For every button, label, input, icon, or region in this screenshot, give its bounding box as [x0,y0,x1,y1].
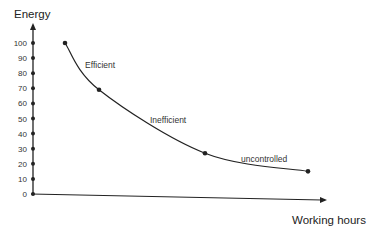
y-tick-mark-0 [31,192,35,196]
y-tick-label-80: 80 [18,69,27,78]
y-axis-label: Energy [14,8,51,20]
x-axis-label: Working hours [292,214,366,226]
y-tick-label-40: 40 [18,130,27,139]
y-tick-label-0: 0 [23,190,28,199]
y-tick-mark-90 [31,56,35,60]
x-axis-line [31,194,322,200]
energy-chart: Energy Working hours 0102030405060708090… [0,0,374,238]
y-tick-label-60: 60 [18,99,27,108]
y-tick-mark-100 [31,41,35,45]
y-tick-label-20: 20 [18,160,27,169]
data-point-2 [97,88,102,93]
y-tick-mark-20 [31,162,35,166]
y-tick-mark-40 [31,132,35,136]
annotation-inefficient: Inefficient [150,115,187,125]
y-axis-arrow-icon [30,23,36,30]
annotation-efficient: Efficient [85,60,116,70]
y-tick-mark-50 [31,117,35,121]
y-tick-label-10: 10 [18,175,27,184]
data-point-1 [63,41,68,46]
y-tick-mark-10 [31,177,35,181]
annotation-uncontrolled: uncontrolled [241,154,288,164]
y-tick-label-100: 100 [14,39,28,48]
y-tick-label-90: 90 [18,54,27,63]
y-tick-label-70: 70 [18,84,27,93]
y-tick-mark-30 [31,147,35,151]
data-point-3 [203,151,208,156]
y-tick-mark-80 [31,71,35,75]
y-tick-label-30: 30 [18,145,27,154]
x-axis-arrow-icon [320,197,327,203]
y-tick-mark-70 [31,86,35,90]
y-tick-label-50: 50 [18,115,27,124]
y-tick-mark-60 [31,101,35,105]
data-point-4 [306,169,311,174]
